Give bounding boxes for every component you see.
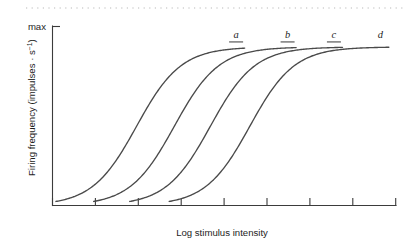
curve-c (130, 47, 343, 201)
curve-a (56, 48, 245, 201)
curve-d (169, 47, 389, 201)
y-axis-max-label: max (28, 21, 46, 32)
y-axis-title: Firing frequency (impulses · s−1) (26, 39, 37, 176)
curve-labels: a b c d (233, 29, 383, 40)
y-axis-title-close: ) (26, 39, 37, 42)
curve-label-a: a (233, 29, 238, 40)
y-axis-title-main: Firing frequency (impulses · s (26, 50, 37, 176)
curve-label-d: d (378, 29, 384, 40)
stimulus-response-chart: max Firing frequency (impulses · s−1) Lo… (0, 0, 410, 251)
curve-group (56, 47, 389, 201)
curve-b (94, 48, 296, 202)
curve-label-b: b (285, 29, 290, 40)
curve-label-c: c (332, 29, 337, 40)
x-axis-title: Log stimulus intensity (176, 227, 268, 238)
